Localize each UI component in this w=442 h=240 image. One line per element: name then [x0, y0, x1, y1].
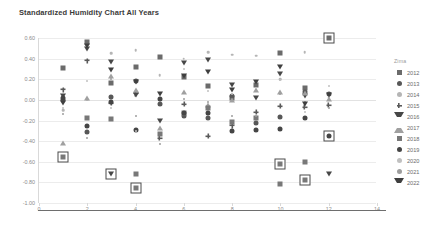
data-point: [279, 93, 281, 95]
data-point: [108, 67, 114, 72]
legend-marker-icon: [394, 92, 404, 97]
data-point: [206, 84, 211, 89]
legend-marker-icon: [394, 103, 404, 108]
data-point: [62, 113, 64, 115]
x-axis-tick-mark: [87, 203, 88, 206]
data-point: [133, 127, 138, 132]
data-point: [135, 115, 137, 117]
legend-item-2013[interactable]: 2013: [394, 78, 419, 89]
legend-marker-icon: [394, 169, 404, 174]
data-point: [255, 87, 257, 89]
legend-item-label: 2018: [407, 136, 419, 142]
data-point: [181, 111, 186, 116]
legend-marker-icon: [394, 147, 404, 152]
data-point: [86, 80, 88, 82]
data-point: [157, 102, 162, 107]
data-point: [302, 93, 308, 98]
data-point: [181, 60, 187, 65]
legend-item-2016[interactable]: 2016: [394, 111, 419, 122]
x-axis-tick-label: 10: [277, 206, 283, 212]
data-point: [326, 103, 331, 108]
legend-item-2014[interactable]: 2014: [394, 89, 419, 100]
data-point: [254, 83, 259, 88]
y-axis-tick-label: 0.40: [11, 56, 35, 62]
data-point: [253, 87, 259, 92]
legend-item-2012[interactable]: 2012: [394, 67, 419, 78]
data-point: [85, 129, 90, 134]
data-point: [109, 94, 114, 99]
data-point: [277, 89, 283, 94]
data-point: [157, 125, 163, 130]
data-point: [133, 80, 139, 85]
legend-rows: 2012201320142015201620172018201920202021…: [394, 67, 419, 188]
highlighted-data-point[interactable]: [323, 130, 334, 141]
x-axis-tick-label: 12: [326, 206, 332, 212]
data-point: [302, 105, 307, 110]
legend-item-label: 2012: [407, 70, 419, 76]
data-point: [86, 137, 88, 139]
legend-item-label: 2015: [407, 103, 419, 109]
data-point: [207, 51, 210, 54]
data-point: [254, 127, 259, 132]
data-point: [277, 72, 283, 77]
data-point: [207, 90, 209, 92]
data-point: [302, 90, 308, 95]
legend-marker-icon: [394, 70, 404, 75]
highlighted-data-point[interactable]: [323, 33, 334, 44]
x-axis-tick-mark: [184, 203, 185, 206]
data-point: [278, 104, 283, 109]
highlighted-data-point[interactable]: [130, 182, 141, 193]
data-point: [229, 83, 235, 88]
data-point: [133, 172, 138, 177]
legend-item-2019[interactable]: 2019: [394, 144, 419, 155]
legend-item-label: 2016: [407, 114, 419, 120]
y-axis-tick-label: -0.20: [11, 118, 35, 124]
legend-item-label: 2020: [407, 158, 419, 164]
data-point: [157, 131, 162, 136]
data-point: [133, 87, 139, 92]
x-axis-tick-mark: [232, 203, 233, 206]
data-point: [229, 87, 235, 92]
gridline-y: [39, 59, 376, 60]
y-axis-tick-label: 0.20: [11, 76, 35, 82]
data-point: [61, 65, 66, 70]
y-axis-tick-label: 0.60: [11, 35, 35, 41]
highlighted-data-point[interactable]: [299, 175, 310, 186]
data-point: [303, 51, 306, 54]
data-point: [181, 111, 186, 116]
highlighted-data-point[interactable]: [106, 169, 117, 180]
data-point: [253, 80, 259, 85]
x-axis-tick-label: 6: [182, 206, 185, 212]
gridline-y: [39, 182, 376, 183]
data-point: [110, 52, 113, 55]
legend-item-label: 2014: [407, 92, 419, 98]
x-axis-tick-mark: [377, 203, 378, 206]
data-point: [326, 92, 332, 97]
legend-item-2017[interactable]: 2017: [394, 122, 419, 133]
data-point: [230, 123, 235, 128]
data-point: [231, 53, 234, 56]
data-point: [206, 133, 211, 138]
data-point: [134, 49, 137, 52]
highlighted-data-point[interactable]: [58, 151, 69, 162]
legend-marker-icon: [394, 81, 404, 86]
data-point: [109, 81, 114, 86]
data-point: [108, 74, 114, 79]
data-point: [304, 111, 306, 113]
data-point: [277, 64, 283, 69]
gridline-y: [39, 162, 376, 163]
data-point: [302, 89, 307, 94]
legend-item-2020[interactable]: 2020: [394, 155, 419, 166]
x-axis-tick-label: 8: [231, 206, 234, 212]
data-point: [278, 126, 283, 131]
data-point: [183, 68, 185, 70]
highlighted-data-point[interactable]: [275, 158, 286, 169]
legend-item-label: 2022: [407, 180, 419, 186]
y-axis-tick-label: -1.00: [11, 200, 35, 206]
legend-item-2018[interactable]: 2018: [394, 133, 419, 144]
legend-item-2021[interactable]: 2021: [394, 166, 419, 177]
legend-item-2015[interactable]: 2015: [394, 100, 419, 111]
data-point: [255, 115, 257, 117]
legend-item-2022[interactable]: 2022: [394, 177, 419, 188]
data-point: [60, 100, 66, 105]
